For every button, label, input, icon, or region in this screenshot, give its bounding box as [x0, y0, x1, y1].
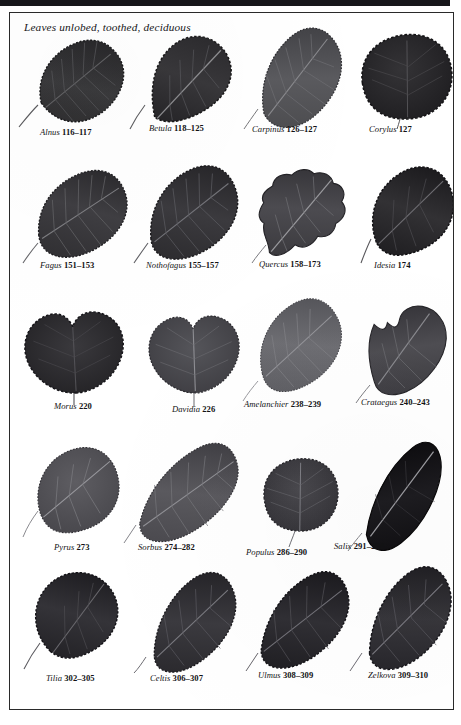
leaf-specimen-tilia: [20, 565, 132, 671]
genus-name: Salix: [334, 541, 351, 551]
page-range: 308–309: [281, 670, 314, 680]
page-range: 126–127: [284, 124, 317, 134]
genus-name: Betula: [149, 123, 172, 133]
leaf-specimen-idesia: [355, 163, 454, 265]
specimen-caption: Pyrus273: [54, 542, 90, 552]
page-range: 302–305: [62, 673, 95, 683]
page-range: 291–294: [351, 541, 384, 551]
specimen-caption: Nothofagus155–157: [146, 260, 219, 270]
page-range: 306–307: [170, 673, 203, 683]
page-range: 151–153: [62, 260, 95, 270]
leaf-specimen-quercus: [246, 161, 358, 265]
specimen-caption: Amelanchier238–239: [244, 399, 321, 409]
leaf-specimen-corylus: [350, 29, 454, 129]
genus-name: Fagus: [40, 260, 62, 270]
plate-inner: Leaves unlobed, toothed, deciduous: [10, 13, 453, 709]
page-range: 286–290: [275, 547, 308, 557]
genus-name: Amelanchier: [244, 399, 288, 409]
specimen-caption: Davidia226: [172, 404, 215, 414]
genus-name: Carpinus: [252, 124, 284, 134]
leaf-specimen-nothofagus: [132, 163, 250, 265]
genus-name: Populus: [246, 547, 275, 557]
page-range: 155–157: [186, 260, 219, 270]
specimen-caption: Zelkova309–310: [368, 670, 428, 680]
specimen-caption: Crataegus240–243: [361, 397, 430, 407]
leaf-specimen-amelanchier: [238, 293, 356, 405]
specimen-caption: Ulmus308–309: [258, 670, 313, 680]
page-range: 127: [397, 124, 412, 134]
leaf-specimen-zelkova: [346, 563, 454, 671]
genus-name: Zelkova: [368, 670, 396, 680]
genus-name: Alnus: [40, 127, 60, 137]
page-bottom-margin: [0, 717, 461, 725]
leaf-specimen-sorbus: [122, 441, 254, 545]
plate-frame: Leaves unlobed, toothed, deciduous: [9, 12, 454, 710]
leaf-specimen-salix: [342, 441, 454, 551]
leaf-specimen-populus: [250, 451, 350, 547]
specimen-caption: Alnus116–117: [40, 127, 92, 137]
genus-name: Nothofagus: [146, 260, 186, 270]
leaf-specimen-betula: [128, 31, 243, 131]
genus-name: Quercus: [259, 259, 288, 269]
page-range: 273: [74, 542, 89, 552]
genus-name: Morus: [54, 401, 77, 411]
page-range: 116–117: [60, 127, 92, 137]
specimen-caption: Idesia174: [374, 260, 411, 270]
genus-name: Davidia: [172, 404, 200, 414]
specimen-caption: Sorbus274–282: [138, 542, 195, 552]
page-top-bar-gap: [450, 0, 461, 6]
specimen-caption: Populus286–290: [246, 547, 307, 557]
leaf-specimen-pyrus: [18, 441, 130, 545]
specimen-caption: Salix291–294: [334, 541, 384, 551]
page-range: 238–239: [288, 399, 321, 409]
genus-name: Idesia: [374, 260, 395, 270]
page-range: 158–173: [288, 259, 321, 269]
specimen-caption: Carpinus126–127: [252, 124, 317, 134]
leaf-specimen-morus: [16, 301, 134, 405]
leaf-specimen-fagus: [20, 165, 138, 265]
page-range: 309–310: [396, 670, 429, 680]
leaf-specimen-ulmus: [242, 567, 362, 671]
genus-name: Celtis: [150, 673, 170, 683]
genus-name: Crataegus: [361, 397, 397, 407]
leaf-specimen-davidia: [138, 305, 250, 407]
specimen-caption: Celtis306–307: [150, 673, 203, 683]
genus-name: Corylus: [369, 124, 397, 134]
genus-name: Tilia: [46, 673, 62, 683]
leaf-specimen-celtis: [132, 569, 250, 673]
page-range: 274–282: [162, 542, 195, 552]
page-range: 174: [395, 260, 410, 270]
page-range: 118–125: [172, 123, 204, 133]
page-top-black-bar: [0, 0, 452, 6]
genus-name: Sorbus: [138, 542, 162, 552]
specimen-caption: Corylus127: [369, 124, 412, 134]
specimen-caption: Fagus151–153: [40, 260, 94, 270]
specimen-caption: Quercus158–173: [259, 259, 321, 269]
genus-name: Pyrus: [54, 542, 74, 552]
leaf-specimen-carpinus: [240, 27, 358, 131]
scanned-plate-page: Leaves unlobed, toothed, deciduous: [0, 0, 461, 725]
genus-name: Ulmus: [258, 670, 281, 680]
specimen-caption: Betula118–125: [149, 123, 204, 133]
page-range: 226: [200, 404, 215, 414]
page-range: 240–243: [397, 397, 430, 407]
specimen-caption: Morus220: [54, 401, 92, 411]
specimen-caption: Tilia302–305: [46, 673, 95, 683]
leaf-specimen-alnus: [16, 35, 134, 131]
page-range: 220: [77, 401, 92, 411]
leaf-specimen-crataegus: [348, 293, 454, 405]
